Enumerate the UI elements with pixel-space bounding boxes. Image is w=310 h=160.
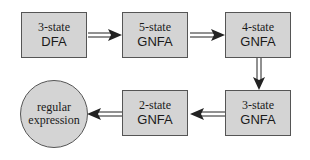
- arrow-3state-to-2state: [190, 108, 225, 120]
- node-3-state-gnfa: 3-state GNFA: [225, 90, 291, 136]
- node-label-line1: 5-state: [139, 21, 171, 34]
- node-label-line2: expression: [28, 114, 79, 127]
- node-label-line2: DFA: [41, 34, 66, 49]
- node-4-state-gnfa: 4-state GNFA: [225, 12, 291, 58]
- node-5-state-gnfa: 5-state GNFA: [122, 12, 188, 58]
- arrow-5state-to-4state: [190, 29, 225, 41]
- arrow-dfa-to-5state: [88, 29, 122, 41]
- node-2-state-gnfa: 2-state GNFA: [122, 90, 188, 136]
- node-label-line2: GNFA: [137, 112, 172, 127]
- node-label-line1: 3-state: [242, 99, 274, 112]
- node-label-line2: GNFA: [240, 34, 275, 49]
- node-regular-expression: regular expression: [20, 80, 88, 148]
- node-label-line2: GNFA: [137, 34, 172, 49]
- node-label-line2: GNFA: [240, 112, 275, 127]
- node-label-line1: 4-state: [242, 21, 274, 34]
- node-label-line1: 3-state: [38, 21, 70, 34]
- arrow-2state-to-regex: [87, 108, 122, 120]
- dfa-to-regex-diagram: 3-state DFA 5-state GNFA 4-state GNFA 3-…: [0, 0, 310, 160]
- arrow-4state-to-3state: [253, 58, 265, 90]
- node-label-line1: 2-state: [139, 99, 171, 112]
- node-3-state-dfa: 3-state DFA: [21, 12, 87, 58]
